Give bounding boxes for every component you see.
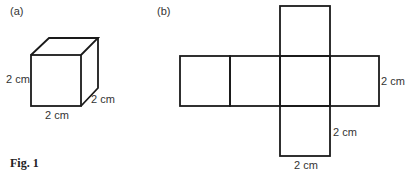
net-square-top	[280, 6, 330, 56]
net-bottom-side-label: 2 cm	[333, 126, 357, 138]
net-square-right	[330, 56, 379, 106]
part-b-label: (b)	[157, 5, 170, 17]
net-right-side-label: 2 cm	[381, 75, 405, 87]
cube-front-face	[31, 55, 81, 106]
figure-canvas: (a) 2 cm 2 cm 2 cm Fig. 1 (b) 2 cm 2 cm …	[0, 0, 406, 173]
cube-drawing	[31, 38, 98, 106]
part-a-label: (a)	[10, 5, 23, 17]
net-square-middle-left	[230, 56, 280, 106]
net-bottom-base-label: 2 cm	[294, 159, 318, 171]
cube-height-label: 2 cm	[6, 73, 30, 85]
cube-width-label: 2 cm	[45, 109, 69, 121]
net-square-left	[180, 56, 230, 106]
figure-caption: Fig. 1	[10, 156, 39, 170]
cube-depth-label: 2 cm	[91, 93, 115, 105]
net-square-center	[280, 56, 330, 106]
net-square-bottom	[280, 106, 330, 156]
cube-top-face	[31, 38, 98, 55]
